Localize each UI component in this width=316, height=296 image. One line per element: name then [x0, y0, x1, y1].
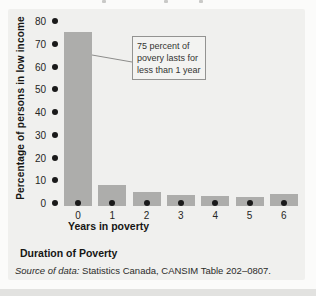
annotation-line: 75 percent of	[137, 40, 201, 52]
y-tick-dot	[52, 200, 58, 206]
y-tick-dot	[52, 155, 58, 161]
bar-year-0	[64, 32, 92, 206]
y-tick-dot	[52, 109, 58, 115]
y-tick-label: 0	[16, 198, 46, 209]
x-tick-dot	[178, 200, 184, 206]
y-tick-dot	[52, 132, 58, 138]
source-line: Source of data: Statistics Canada, CANSI…	[15, 265, 271, 276]
y-tick-dot	[52, 41, 58, 47]
cropped-text-remnant	[199, 0, 203, 3]
y-tick-label: 80	[16, 16, 46, 27]
page-edge-strip	[0, 289, 316, 296]
x-axis-title: Years in poverty	[68, 220, 149, 232]
y-tick-label: 60	[16, 61, 46, 72]
y-tick-label: 30	[16, 129, 46, 140]
y-tick-dot	[52, 177, 58, 183]
y-tick-label: 10	[16, 175, 46, 186]
y-tick-dot	[52, 18, 58, 24]
x-tick-dot	[247, 200, 253, 206]
source-text: Statistics Canada, CANSIM Table 202–0807…	[79, 265, 271, 276]
y-tick-label: 70	[16, 38, 46, 49]
y-tick-label: 40	[16, 107, 46, 118]
annotation-callout: 75 percent of povery lasts for less than…	[132, 36, 206, 80]
annotation-line: less than 1 year	[137, 64, 201, 76]
x-tick-label: 6	[274, 210, 294, 221]
x-tick-dot	[109, 200, 115, 206]
y-tick-dot	[52, 64, 58, 70]
x-tick-dot	[75, 200, 81, 206]
cropped-text-remnant	[164, 0, 168, 3]
annotation-line: povery lasts for	[137, 52, 201, 64]
x-tick-label: 3	[171, 210, 191, 221]
x-tick-label: 5	[240, 210, 260, 221]
y-tick-label: 50	[16, 84, 46, 95]
x-tick-label: 4	[205, 210, 225, 221]
y-tick-label: 20	[16, 152, 46, 163]
cropped-text-remnant	[102, 0, 106, 3]
x-tick-dot	[281, 200, 287, 206]
source-label: Source of data:	[15, 265, 79, 276]
y-tick-dot	[52, 86, 58, 92]
x-tick-dot	[212, 200, 218, 206]
chart-card: Percentage of persons in low income 0102…	[8, 9, 305, 280]
x-tick-dot	[144, 200, 150, 206]
figure-caption: Duration of Poverty	[20, 247, 117, 259]
